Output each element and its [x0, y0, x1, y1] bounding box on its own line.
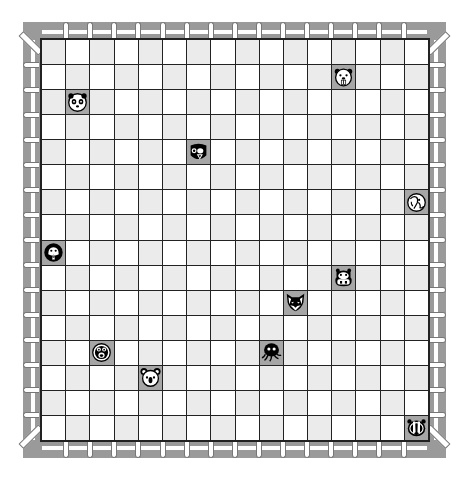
board-cell-r7-c14[interactable] [381, 215, 404, 239]
board-cell-r14-c0[interactable] [42, 391, 65, 415]
board-cell-r10-c15[interactable] [405, 291, 428, 315]
board-cell-r7-c6[interactable] [187, 215, 210, 239]
board-cell-r9-c11[interactable] [308, 266, 331, 290]
board-cell-r1-c2[interactable] [90, 65, 113, 89]
board-cell-r4-c0[interactable] [42, 140, 65, 164]
board-cell-r5-c0[interactable] [42, 165, 65, 189]
board-cell-r6-c11[interactable] [308, 190, 331, 214]
board-cell-r3-c5[interactable] [163, 115, 186, 139]
board-cell-r5-c5[interactable] [163, 165, 186, 189]
board-cell-r0-c6[interactable] [187, 40, 210, 64]
board-cell-r4-c10[interactable] [284, 140, 307, 164]
board-cell-r4-c9[interactable] [260, 140, 283, 164]
board-cell-r9-c5[interactable] [163, 266, 186, 290]
board-cell-r12-c11[interactable] [308, 341, 331, 365]
board-cell-r5-c11[interactable] [308, 165, 331, 189]
board-cell-r11-c2[interactable] [90, 316, 113, 340]
board-cell-r13-c9[interactable] [260, 366, 283, 390]
board-cell-r8-c14[interactable] [381, 241, 404, 265]
board-cell-r13-c11[interactable] [308, 366, 331, 390]
board-cell-r11-c3[interactable] [115, 316, 138, 340]
board-cell-r8-c7[interactable] [211, 241, 234, 265]
board-cell-r3-c14[interactable] [381, 115, 404, 139]
board-cell-r13-c1[interactable] [66, 366, 89, 390]
board-cell-r12-c1[interactable] [66, 341, 89, 365]
board-cell-r9-c7[interactable] [211, 266, 234, 290]
board-cell-r8-c3[interactable] [115, 241, 138, 265]
board-cell-r12-c15[interactable] [405, 341, 428, 365]
board-cell-r11-c13[interactable] [356, 316, 379, 340]
koala-icon[interactable] [140, 367, 161, 388]
board-cell-r14-c9[interactable] [260, 391, 283, 415]
board-cell-r4-c4[interactable] [139, 140, 162, 164]
board-cell-r3-c1[interactable] [66, 115, 89, 139]
board-cell-r9-c15[interactable] [405, 266, 428, 290]
board-cell-r1-c7[interactable] [211, 65, 234, 89]
board-cell-r12-c10[interactable] [284, 341, 307, 365]
board-cell-r4-c3[interactable] [115, 140, 138, 164]
board-cell-r4-c7[interactable] [211, 140, 234, 164]
panda-icon[interactable] [67, 92, 88, 113]
board-cell-r14-c8[interactable] [236, 391, 259, 415]
board-cell-r6-c6[interactable] [187, 190, 210, 214]
board-cell-r1-c3[interactable] [115, 65, 138, 89]
bear-icon[interactable] [188, 142, 209, 163]
board-cell-r5-c13[interactable] [356, 165, 379, 189]
board-cell-r11-c1[interactable] [66, 316, 89, 340]
board-cell-r15-c10[interactable] [284, 416, 307, 440]
board-cell-r3-c11[interactable] [308, 115, 331, 139]
board-cell-r8-c12[interactable] [332, 241, 355, 265]
board-cell-r2-c7[interactable] [211, 90, 234, 114]
board-cell-r1-c8[interactable] [236, 65, 259, 89]
board-cell-r15-c12[interactable] [332, 416, 355, 440]
board-cell-r15-c7[interactable] [211, 416, 234, 440]
board-cell-r14-c13[interactable] [356, 391, 379, 415]
board-cell-r2-c0[interactable] [42, 90, 65, 114]
board-cell-r12-c4[interactable] [139, 341, 162, 365]
hippo-icon[interactable] [333, 267, 354, 288]
board-cell-r13-c5[interactable] [163, 366, 186, 390]
board-cell-r15-c15[interactable] [405, 416, 428, 440]
board-cell-r0-c15[interactable] [405, 40, 428, 64]
board-cell-r0-c8[interactable] [236, 40, 259, 64]
board-cell-r8-c1[interactable] [66, 241, 89, 265]
board-cell-r4-c11[interactable] [308, 140, 331, 164]
board-cell-r14-c7[interactable] [211, 391, 234, 415]
board-cell-r14-c3[interactable] [115, 391, 138, 415]
board-cell-r5-c12[interactable] [332, 165, 355, 189]
board-cell-r4-c6[interactable] [187, 140, 210, 164]
board-cell-r11-c6[interactable] [187, 316, 210, 340]
board-cell-r12-c2[interactable] [90, 341, 113, 365]
board-cell-r13-c12[interactable] [332, 366, 355, 390]
board-cell-r8-c13[interactable] [356, 241, 379, 265]
board-cell-r7-c2[interactable] [90, 215, 113, 239]
board-cell-r0-c11[interactable] [308, 40, 331, 64]
board-cell-r3-c2[interactable] [90, 115, 113, 139]
board-cell-r3-c10[interactable] [284, 115, 307, 139]
board-cell-r2-c4[interactable] [139, 90, 162, 114]
board-cell-r10-c10[interactable] [284, 291, 307, 315]
board-cell-r13-c15[interactable] [405, 366, 428, 390]
board-cell-r9-c4[interactable] [139, 266, 162, 290]
board-cell-r1-c0[interactable] [42, 65, 65, 89]
board-cell-r5-c3[interactable] [115, 165, 138, 189]
board-cell-r2-c10[interactable] [284, 90, 307, 114]
board-cell-r15-c14[interactable] [381, 416, 404, 440]
board-cell-r14-c6[interactable] [187, 391, 210, 415]
board-cell-r10-c11[interactable] [308, 291, 331, 315]
board-cell-r6-c2[interactable] [90, 190, 113, 214]
board-cell-r6-c1[interactable] [66, 190, 89, 214]
board-cell-r8-c15[interactable] [405, 241, 428, 265]
board-cell-r9-c9[interactable] [260, 266, 283, 290]
board-cell-r15-c9[interactable] [260, 416, 283, 440]
board-cell-r8-c9[interactable] [260, 241, 283, 265]
board-cell-r13-c14[interactable] [381, 366, 404, 390]
board-cell-r5-c2[interactable] [90, 165, 113, 189]
penguin-icon[interactable] [43, 242, 64, 263]
board-cell-r1-c14[interactable] [381, 65, 404, 89]
board-cell-r2-c5[interactable] [163, 90, 186, 114]
badger-icon[interactable] [406, 417, 427, 438]
board-cell-r2-c1[interactable] [66, 90, 89, 114]
board-cell-r1-c11[interactable] [308, 65, 331, 89]
board-cell-r7-c1[interactable] [66, 215, 89, 239]
